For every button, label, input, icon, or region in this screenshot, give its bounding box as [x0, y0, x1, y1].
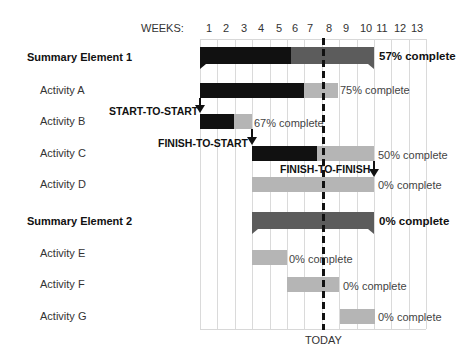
- bar-complete-segment: [200, 83, 304, 98]
- week-tick: 9: [337, 22, 355, 34]
- row-label-activity-a: Activity A: [40, 84, 85, 96]
- summary-tab-right: [368, 64, 374, 69]
- row-label-activity-f: Activity F: [40, 278, 85, 290]
- weeks-axis-label: WEEKS:: [141, 22, 184, 34]
- activity-bar-e[interactable]: [252, 250, 287, 265]
- bar-remaining-segment: [304, 83, 338, 98]
- dependency-label-start-to-start: START-TO-START: [109, 105, 198, 117]
- percent-complete-label: 75% complete: [340, 84, 410, 96]
- week-tick: 13: [408, 22, 426, 34]
- row-label-activity-g: Activity G: [40, 310, 86, 322]
- week-tick: 1: [200, 22, 218, 34]
- bar-remaining-segment: [291, 47, 374, 64]
- today-marker-line: [322, 38, 325, 330]
- row-label-activity-d: Activity D: [40, 178, 86, 190]
- bar-remaining-segment: [340, 309, 375, 324]
- arrow-down-icon: [369, 169, 379, 177]
- bar-remaining-segment: [287, 277, 339, 292]
- arrow-down-icon: [195, 105, 205, 113]
- percent-complete-label: 50% complete: [378, 149, 448, 161]
- row-label-activity-e: Activity E: [40, 247, 85, 259]
- percent-complete-label: 0% complete: [289, 253, 353, 265]
- dependency-label-finish-to-start: FINISH-TO-START: [158, 137, 248, 149]
- bar-complete-segment: [200, 114, 234, 129]
- summary-tab-left: [252, 229, 258, 234]
- activity-bar-g[interactable]: [340, 309, 375, 324]
- week-tick: 4: [252, 22, 270, 34]
- bar-complete-segment: [252, 146, 317, 161]
- week-tick: 7: [301, 22, 319, 34]
- bar-remaining-segment: [252, 177, 374, 192]
- summary-tab-left: [200, 64, 206, 69]
- activity-bar-a[interactable]: [200, 83, 338, 98]
- activity-bar-b[interactable]: [200, 114, 252, 129]
- percent-complete-label: 0% complete: [378, 311, 442, 323]
- bar-remaining-segment: [252, 212, 374, 229]
- row-label-activity-c: Activity C: [40, 147, 86, 159]
- today-label: TODAY: [305, 334, 342, 346]
- summary-tab-right: [368, 229, 374, 234]
- bar-remaining-segment: [317, 146, 374, 161]
- summary-bar-2[interactable]: [252, 212, 374, 229]
- arrow-down-icon: [247, 137, 257, 145]
- week-tick: 11: [373, 22, 391, 34]
- row-label-summary-2: Summary Element 2: [27, 215, 132, 227]
- percent-complete-label: 67% complete: [254, 117, 324, 129]
- week-tick: 2: [217, 22, 235, 34]
- activity-bar-d[interactable]: [252, 177, 374, 192]
- week-tick: 8: [320, 22, 338, 34]
- bar-complete-segment: [200, 47, 291, 64]
- bar-remaining-segment: [234, 114, 252, 129]
- row-label-summary-1: Summary Element 1: [27, 51, 132, 63]
- percent-complete-label: 0% complete: [378, 179, 442, 191]
- bar-remaining-segment: [252, 250, 287, 265]
- percent-complete-label: 0% complete: [343, 280, 407, 292]
- activity-bar-f[interactable]: [287, 277, 339, 292]
- dependency-label-finish-to-finish: FINISH-TO-FINISH: [280, 163, 370, 175]
- week-tick: 12: [391, 22, 409, 34]
- activity-bar-c[interactable]: [252, 146, 374, 161]
- row-label-activity-b: Activity B: [40, 115, 85, 127]
- percent-complete-label: 57% complete: [379, 50, 456, 62]
- summary-bar-1[interactable]: [200, 47, 374, 64]
- week-tick: 3: [235, 22, 253, 34]
- percent-complete-label: 0% complete: [379, 215, 449, 227]
